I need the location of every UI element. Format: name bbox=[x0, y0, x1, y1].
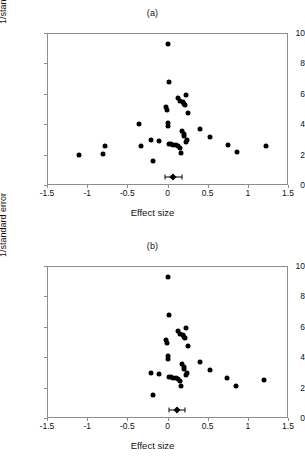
y-tick-label: 8 bbox=[275, 291, 305, 301]
data-point bbox=[165, 274, 170, 279]
data-point bbox=[179, 384, 184, 389]
x-tick-label: 0.5 bbox=[202, 421, 214, 431]
x-tick-label: 1 bbox=[245, 421, 250, 431]
data-point bbox=[183, 93, 188, 98]
x-tick-mark bbox=[47, 418, 48, 421]
data-point bbox=[197, 126, 202, 131]
x-tick-label: 0.5 bbox=[202, 188, 214, 198]
data-point bbox=[183, 373, 188, 378]
y-tick-label: 2 bbox=[275, 383, 305, 393]
summary-ci-cap bbox=[165, 174, 166, 179]
y-tick-label: 4 bbox=[275, 119, 305, 129]
data-point bbox=[101, 151, 106, 156]
y-tick-mark bbox=[44, 388, 47, 389]
y-tick-label: 4 bbox=[275, 352, 305, 362]
x-tick-mark bbox=[127, 418, 128, 421]
data-point bbox=[165, 124, 170, 129]
x-tick-mark bbox=[288, 418, 289, 421]
x-tick-label: 1.5 bbox=[282, 188, 294, 198]
data-point bbox=[165, 357, 170, 362]
panel-a-x-axis-label: Effect size bbox=[0, 207, 305, 218]
summary-ci-cap bbox=[185, 408, 186, 413]
x-tick-label: -1 bbox=[83, 188, 91, 198]
x-tick-mark bbox=[87, 418, 88, 421]
data-point bbox=[183, 103, 188, 108]
data-point bbox=[183, 326, 188, 331]
panel-b: (b) 1/standard error 0246810-1.5-1-0.500… bbox=[0, 233, 305, 466]
x-tick-label: -1 bbox=[83, 421, 91, 431]
data-point bbox=[178, 145, 183, 150]
x-tick-mark bbox=[127, 185, 128, 188]
y-tick-mark bbox=[44, 357, 47, 358]
x-tick-mark bbox=[168, 418, 169, 421]
data-point bbox=[156, 371, 161, 376]
x-tick-label: 0 bbox=[165, 421, 170, 431]
data-point bbox=[138, 144, 143, 149]
data-point bbox=[183, 336, 188, 341]
panel-a: (a) 1/standard error 0246810-1.5-1-0.500… bbox=[0, 0, 305, 233]
data-point bbox=[208, 135, 213, 140]
data-point bbox=[186, 110, 191, 115]
data-point bbox=[178, 378, 183, 383]
data-point bbox=[224, 376, 229, 381]
x-tick-label: -1.5 bbox=[40, 188, 55, 198]
y-tick-mark bbox=[44, 266, 47, 267]
summary-ci-cap bbox=[181, 174, 182, 179]
data-point bbox=[208, 368, 213, 373]
data-point bbox=[77, 152, 82, 157]
data-point bbox=[167, 312, 172, 317]
y-tick-mark bbox=[44, 63, 47, 64]
x-tick-mark bbox=[288, 185, 289, 188]
data-point bbox=[165, 41, 170, 46]
x-tick-label: 1 bbox=[245, 188, 250, 198]
data-point bbox=[235, 149, 240, 154]
y-tick-label: 2 bbox=[275, 150, 305, 160]
data-point bbox=[164, 107, 169, 112]
y-tick-label: 8 bbox=[275, 58, 305, 68]
data-point bbox=[149, 370, 154, 375]
y-tick-mark bbox=[44, 327, 47, 328]
funnel-plot-figure: (a) 1/standard error 0246810-1.5-1-0.500… bbox=[0, 0, 305, 466]
x-tick-mark bbox=[47, 185, 48, 188]
data-point bbox=[225, 142, 230, 147]
y-tick-label: 6 bbox=[275, 322, 305, 332]
x-tick-label: -0.5 bbox=[120, 188, 135, 198]
y-tick-label: 6 bbox=[275, 89, 305, 99]
x-tick-label: 1.5 bbox=[282, 421, 294, 431]
data-point bbox=[263, 144, 268, 149]
x-tick-mark bbox=[248, 418, 249, 421]
y-tick-mark bbox=[44, 296, 47, 297]
x-tick-mark bbox=[208, 418, 209, 421]
data-point bbox=[102, 144, 107, 149]
y-tick-label: 10 bbox=[275, 28, 305, 38]
x-tick-mark bbox=[168, 185, 169, 188]
panel-b-x-axis-label: Effect size bbox=[0, 440, 305, 451]
data-point bbox=[167, 79, 172, 84]
data-point bbox=[151, 393, 156, 398]
data-point bbox=[183, 140, 188, 145]
x-tick-label: -0.5 bbox=[120, 421, 135, 431]
x-tick-label: 0 bbox=[165, 188, 170, 198]
x-tick-mark bbox=[208, 185, 209, 188]
data-point bbox=[197, 359, 202, 364]
panel-a-title: (a) bbox=[0, 8, 305, 18]
y-tick-mark bbox=[44, 124, 47, 125]
y-tick-mark bbox=[44, 94, 47, 95]
panel-b-y-axis-label: 1/standard error bbox=[0, 165, 8, 285]
x-tick-mark bbox=[87, 185, 88, 188]
x-tick-mark bbox=[248, 185, 249, 188]
data-point bbox=[164, 340, 169, 345]
data-point bbox=[179, 151, 184, 156]
summary-ci-cap bbox=[169, 408, 170, 413]
data-point bbox=[151, 158, 156, 163]
y-tick-mark bbox=[44, 155, 47, 156]
panel-b-title: (b) bbox=[0, 241, 305, 251]
data-point bbox=[261, 377, 266, 382]
data-point bbox=[137, 122, 142, 127]
y-tick-label: 10 bbox=[275, 261, 305, 271]
data-point bbox=[156, 138, 161, 143]
data-point bbox=[233, 384, 238, 389]
panel-a-y-axis-label: 1/standard error bbox=[0, 0, 8, 52]
y-tick-mark bbox=[44, 33, 47, 34]
x-tick-label: -1.5 bbox=[40, 421, 55, 431]
